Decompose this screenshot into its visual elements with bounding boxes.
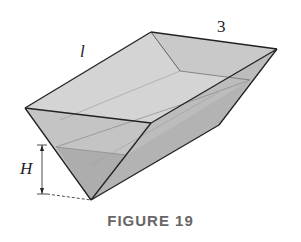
height-label: H <box>20 160 32 177</box>
figure-caption: FIGURE 19 <box>0 212 301 229</box>
trough-diagram <box>0 0 301 242</box>
width-label: 3 <box>217 18 226 35</box>
length-label: l <box>80 43 85 60</box>
